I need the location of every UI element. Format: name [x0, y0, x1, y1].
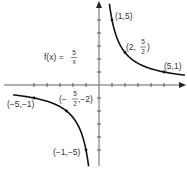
- svg-text:(−: (−: [59, 94, 67, 104]
- axes: [4, 5, 182, 166]
- svg-text:5: 5: [72, 49, 76, 56]
- x-axis-arrow-icon: [179, 82, 186, 88]
- svg-text:): ): [147, 42, 150, 52]
- svg-text:,−2): ,−2): [78, 94, 93, 104]
- label-point-neg5-2-neg2: (− 5 2 ,−2): [59, 90, 93, 107]
- svg-text:x: x: [72, 58, 76, 65]
- svg-text:5: 5: [73, 90, 77, 97]
- function-label: f(x) = 5 x: [44, 49, 77, 65]
- label-point-neg1-neg5: (−1,−5): [53, 147, 81, 157]
- label-point-2-5-2: (2, 5 2 ): [126, 38, 150, 55]
- hyperbola-graph: f(x) = 5 x (1,5) (2, 5 2 ) (5,1) (−5,−1)…: [0, 0, 187, 169]
- label-point-5-1: (5,1): [164, 61, 182, 71]
- svg-text:2: 2: [141, 48, 145, 55]
- svg-text:5: 5: [141, 38, 145, 45]
- label-point-neg5-neg1: (−5,−1): [7, 99, 35, 109]
- y-axis-arrow-icon: [96, 1, 102, 8]
- svg-text:(2,: (2,: [126, 42, 136, 52]
- label-point-1-5: (1,5): [115, 11, 133, 21]
- svg-text:f(x) =: f(x) =: [44, 52, 64, 62]
- svg-text:2: 2: [73, 100, 77, 107]
